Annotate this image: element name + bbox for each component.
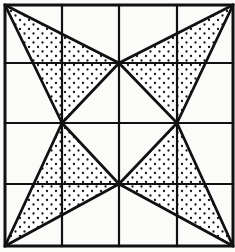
star-grid-figure xyxy=(0,0,235,252)
figure-container xyxy=(0,0,235,252)
